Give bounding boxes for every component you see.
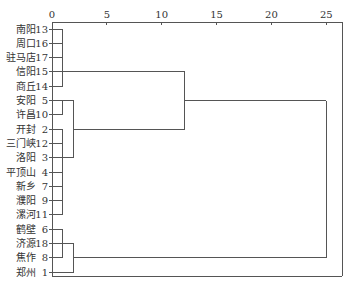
leaf-id: 17: [35, 52, 48, 63]
leaf-id: 8: [42, 252, 48, 263]
leaf-name: 焦作: [16, 251, 36, 263]
leaf-name: 驻马店: [6, 51, 36, 63]
leaf-id: 15: [35, 66, 48, 77]
leaf-id: 5: [42, 95, 48, 106]
leaf-name: 济源: [16, 237, 36, 249]
leaf-id: 7: [42, 181, 48, 192]
leaf-name: 许昌: [16, 109, 36, 120]
leaf-name: 平顶山: [6, 167, 36, 178]
leaf-name: 三门峡: [6, 137, 36, 149]
leaf-name: 鹤壁: [16, 223, 36, 235]
leaf-id: 12: [35, 138, 48, 149]
leaf-name: 商丘: [16, 80, 36, 92]
dendrogram-links: [52, 29, 326, 272]
x-axis: 0510152025: [49, 9, 333, 25]
leaf-id: 2: [42, 124, 48, 135]
leaf-id: 11: [35, 209, 48, 220]
leaf-name: 安阳: [16, 94, 36, 106]
leaf-name: 新乡: [16, 180, 36, 192]
x-tick-label: 25: [320, 9, 333, 20]
leaf-name: 南阳: [16, 23, 36, 35]
leaf-id: 4: [42, 167, 48, 178]
leaf-name: 郑州: [16, 266, 36, 278]
leaf-id: 1: [42, 267, 48, 278]
leaf-id: 18: [35, 238, 48, 249]
x-tick-label: 15: [210, 9, 223, 20]
leaf-name: 信阳: [16, 66, 36, 77]
leaf-id: 9: [42, 195, 48, 206]
leaf-id: 6: [42, 224, 48, 235]
leaf-id: 14: [35, 81, 48, 92]
x-tick-label: 10: [155, 9, 168, 20]
x-tick-label: 5: [104, 9, 110, 20]
plot-frame: [52, 22, 342, 276]
leaf-id: 16: [35, 38, 48, 49]
x-tick-label: 20: [265, 9, 278, 20]
leaf-id: 13: [35, 24, 48, 35]
leaf-id: 10: [35, 109, 48, 120]
leaf-name: 周口: [16, 38, 36, 49]
dendrogram-chart: 0510152025 南阳13周口16驻马店17信阳15商丘14安阳5许昌10开…: [0, 0, 351, 289]
leaf-labels: 南阳13周口16驻马店17信阳15商丘14安阳5许昌10开封2三门峡12洛阳3平…: [6, 23, 52, 278]
x-tick-label: 0: [49, 9, 55, 20]
leaf-name: 开封: [16, 123, 36, 135]
leaf-id: 3: [42, 152, 48, 163]
leaf-name: 洛阳: [16, 151, 36, 163]
leaf-name: 漯河: [16, 209, 36, 220]
leaf-name: 濮阳: [16, 194, 36, 206]
